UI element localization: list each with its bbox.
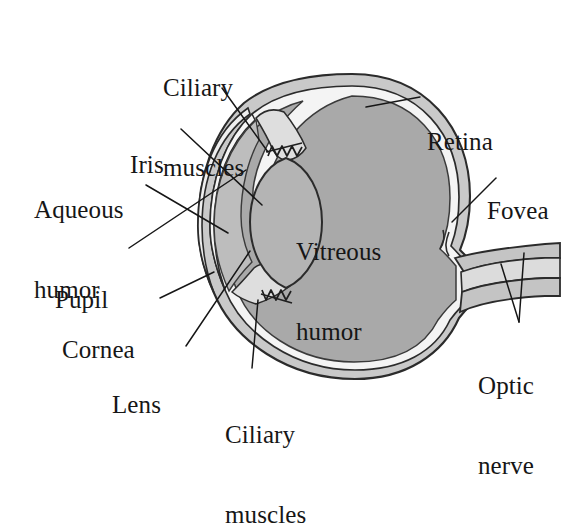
label-vitreous-humor: Vitreous humor (296, 186, 381, 398)
label-iris: Iris (130, 100, 164, 230)
label-fovea: Fovea (487, 146, 549, 276)
label-optic-nerve: Optic nerve (478, 320, 534, 527)
label-retina: Retina (427, 77, 493, 207)
label-lens: Lens (112, 340, 161, 470)
label-ciliary-muscles-bottom: Ciliary muscles (225, 369, 306, 527)
label-ciliary-muscles-top: Ciliary muscles (163, 22, 244, 234)
leader-cornea (160, 272, 214, 298)
